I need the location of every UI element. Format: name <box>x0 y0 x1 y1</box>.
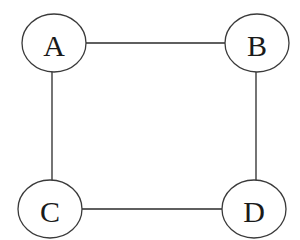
node-d: D <box>222 180 286 238</box>
node-c-label: C <box>40 195 60 228</box>
node-b-label: B <box>247 29 267 62</box>
edges <box>52 43 256 209</box>
graph-diagram: A B C D <box>0 0 300 240</box>
node-c: C <box>18 180 82 238</box>
node-a: A <box>22 14 86 72</box>
node-d-label: D <box>243 195 265 228</box>
node-b: B <box>225 14 289 72</box>
node-a-label: A <box>43 29 65 62</box>
